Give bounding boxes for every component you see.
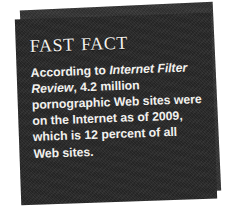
card-content: Fast Fact According to Internet Filter R… [15,13,217,206]
page-title: Fast Fact [29,25,200,56]
fact-lead-text: According to [30,63,109,80]
fast-fact-graphic: Fast Fact According to Internet Filter R… [0,0,229,217]
front-card-layer: Fast Fact According to Internet Filter R… [15,13,217,206]
fact-body-text: According to Internet Filter Review, 4.2… [30,59,203,162]
